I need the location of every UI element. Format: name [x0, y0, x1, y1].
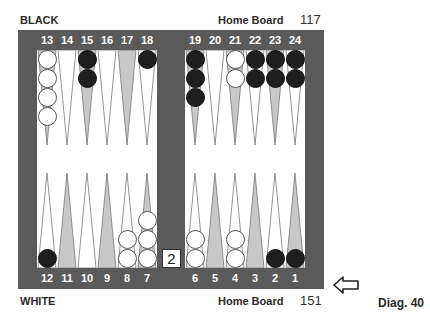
point-10[interactable]: [77, 50, 97, 268]
home-board: [185, 50, 305, 268]
bottom-player-label: WHITE: [20, 295, 55, 307]
point-3[interactable]: [245, 50, 265, 268]
point-number-label: 10: [77, 272, 97, 284]
point-number-label: 5: [205, 272, 225, 284]
point-number-label: 17: [117, 34, 137, 46]
point-number-label: 21: [225, 34, 245, 46]
white-checker[interactable]: [138, 230, 157, 249]
point-number-label: 23: [265, 34, 285, 46]
white-checker[interactable]: [138, 249, 157, 268]
point-9[interactable]: [97, 50, 117, 268]
white-checker[interactable]: [186, 230, 205, 249]
black-checker[interactable]: [38, 249, 57, 268]
arrow-left-icon: [332, 276, 360, 294]
white-checker[interactable]: [226, 230, 245, 249]
point-number-label: 16: [97, 34, 117, 46]
point-number-label: 3: [245, 272, 265, 284]
point-5[interactable]: [205, 50, 225, 268]
point-12[interactable]: [37, 50, 57, 268]
top-pip-count: 117: [300, 12, 321, 27]
point-number-label: 22: [245, 34, 265, 46]
point-number-label: 18: [137, 34, 157, 46]
point-number-label: 20: [205, 34, 225, 46]
diagram-label: Diag. 40: [378, 296, 424, 310]
point-number-label: 15: [77, 34, 97, 46]
point-number-label: 12: [37, 272, 57, 284]
doubling-cube[interactable]: 2: [162, 249, 181, 268]
top-player-label: BLACK: [20, 14, 59, 26]
point-number-label: 19: [185, 34, 205, 46]
bottom-home-board-label: Home Board: [218, 295, 283, 307]
white-checker[interactable]: [138, 211, 157, 230]
white-checker[interactable]: [118, 230, 137, 249]
point-11[interactable]: [57, 50, 77, 268]
point-number-label: 9: [97, 272, 117, 284]
point-number-label: 4: [225, 272, 245, 284]
point-number-label: 6: [185, 272, 205, 284]
top-home-board-label: Home Board: [218, 14, 283, 26]
point-2[interactable]: [265, 50, 285, 268]
point-number-label: 8: [117, 272, 137, 284]
white-checker[interactable]: [186, 249, 205, 268]
point-number-label: 14: [57, 34, 77, 46]
black-checker[interactable]: [286, 249, 305, 268]
point-1[interactable]: [285, 50, 305, 268]
point-number-label: 24: [285, 34, 305, 46]
outer-board: [37, 50, 157, 268]
point-number-label: 2: [265, 272, 285, 284]
bottom-pip-count: 151: [300, 293, 322, 308]
white-checker[interactable]: [118, 249, 137, 268]
bar[interactable]: [157, 50, 185, 268]
black-checker[interactable]: [266, 249, 285, 268]
point-number-label: 13: [37, 34, 57, 46]
point-number-label: 11: [57, 272, 77, 284]
point-number-label: 1: [285, 272, 305, 284]
point-number-label: 7: [137, 272, 157, 284]
white-checker[interactable]: [226, 249, 245, 268]
